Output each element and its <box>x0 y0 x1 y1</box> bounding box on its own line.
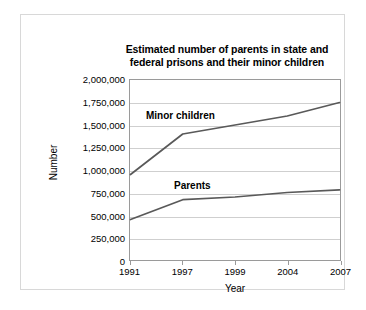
x-axis-tick-mark <box>182 261 183 265</box>
series-label-parents: Parents <box>172 180 213 191</box>
y-axis-tick-label: 1,000,000 <box>67 165 125 176</box>
x-axis-tick-mark <box>341 261 342 265</box>
x-axis-tick-label: 1997 <box>159 266 205 277</box>
y-axis-tick-label: 750,000 <box>67 187 125 198</box>
x-axis-tick-label: 2007 <box>318 266 364 277</box>
y-axis-title: Number <box>48 128 59 198</box>
chart-title-line-1: Estimated number of parents in state and <box>126 43 329 55</box>
y-axis-tick-label: 500,000 <box>67 210 125 221</box>
x-axis-tick-label: 1999 <box>212 266 258 277</box>
chart-title-line-2: federal prisons and their minor children <box>130 56 324 68</box>
x-axis-tick-mark <box>288 261 289 265</box>
y-axis-tick-labels: 2,000,0001,750,0001,500,0001,250,0001,00… <box>65 79 125 261</box>
y-axis-tick-label: 1,500,000 <box>67 119 125 130</box>
y-axis-tick-label: 2,000,000 <box>67 74 125 85</box>
x-axis-tick-label: 1991 <box>107 266 153 277</box>
x-axis-tick-mark <box>130 261 131 265</box>
chart-title: Estimated number of parents in state and… <box>109 43 345 69</box>
x-axis-tick-label: 2004 <box>265 266 311 277</box>
x-axis-tick-mark <box>235 261 236 265</box>
y-axis-tick-label: 1,250,000 <box>67 142 125 153</box>
y-axis-tick-label: 1,750,000 <box>67 96 125 107</box>
x-axis-title: Year <box>129 283 341 294</box>
series-line-parents <box>130 190 339 220</box>
y-axis-tick-label: 0 <box>67 256 125 267</box>
chart-card: Estimated number of parents in state and… <box>20 14 345 290</box>
series-lines <box>130 80 340 260</box>
series-label-minor-children: Minor children <box>144 110 217 121</box>
plot-inner: Minor children Parents <box>130 80 340 260</box>
y-axis-tick-label: 250,000 <box>67 233 125 244</box>
plot-area: Minor children Parents <box>129 79 341 261</box>
